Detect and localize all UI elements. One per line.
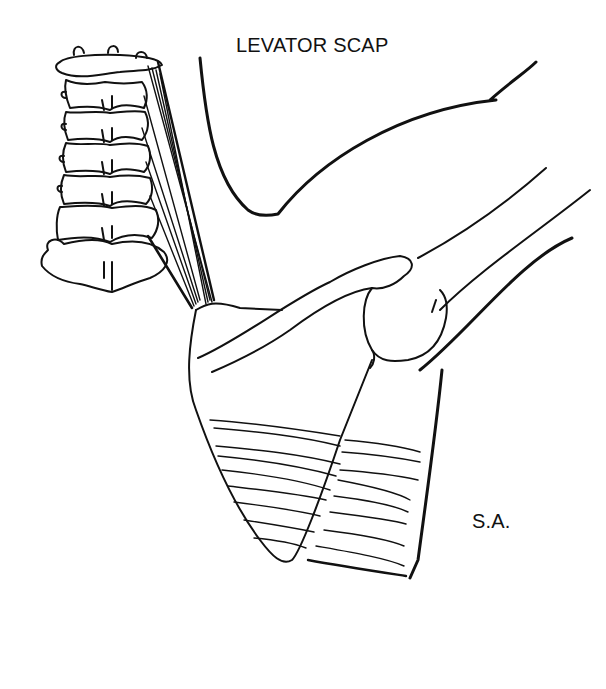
body-contours [200, 58, 590, 578]
anatomy-illustration [0, 0, 606, 689]
serratus-anterior-muscle [210, 420, 420, 576]
